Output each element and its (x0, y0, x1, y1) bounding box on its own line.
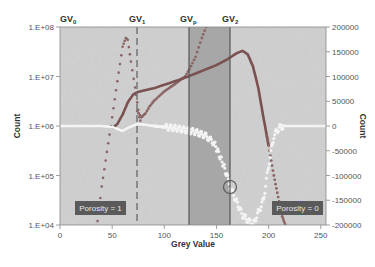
data-point (265, 177, 268, 180)
data-point (200, 37, 203, 40)
data-point (271, 141, 274, 144)
data-point (139, 119, 142, 122)
data-point (277, 196, 280, 199)
porosity-zero-badge: Porosity = 0 (272, 201, 323, 215)
data-point (183, 127, 186, 130)
data-point (123, 40, 126, 43)
data-point (250, 225, 253, 228)
data-point (235, 197, 238, 200)
data-point (120, 54, 123, 57)
porosity-one-label: Porosity = 1 (79, 204, 122, 213)
x-tick-label: 250 (314, 231, 328, 240)
svg-text:GVp: GVp (180, 14, 197, 25)
data-point (99, 197, 102, 200)
data-point (265, 135, 268, 138)
gvp-label: GVp (180, 14, 197, 25)
data-point (259, 209, 262, 212)
data-point (190, 65, 193, 68)
left-axis: 1.E+041.E+051.E+061.E+071.E+08 (28, 23, 60, 230)
data-point (200, 130, 203, 133)
data-point (271, 164, 274, 167)
right-tick-label: 150000 (332, 48, 359, 57)
data-point (263, 196, 266, 199)
data-point (96, 220, 99, 223)
data-point (220, 155, 223, 158)
data-point (267, 166, 270, 169)
right-tick-label: -150000 (332, 196, 362, 205)
data-point (277, 130, 280, 133)
data-point (185, 73, 188, 76)
data-point (217, 150, 220, 153)
data-point (275, 187, 278, 190)
data-point (281, 127, 284, 130)
chart: Porosity = 1 Porosity = 0 GV0 GV1 GVp GV… (0, 0, 375, 267)
data-point (226, 174, 229, 177)
data-point (197, 46, 200, 49)
data-point (116, 80, 119, 83)
data-point (272, 169, 275, 172)
data-point (144, 112, 147, 115)
data-point (193, 59, 196, 62)
data-point (255, 216, 258, 219)
svg-text:GV0: GV0 (60, 14, 77, 25)
right-axis-title: Count (358, 114, 368, 139)
x-axis: 050100150200250 (58, 225, 328, 240)
data-point (130, 60, 133, 63)
data-point (273, 178, 276, 181)
data-point (267, 144, 270, 147)
data-point (191, 62, 194, 65)
data-point (106, 151, 109, 154)
data-point (112, 107, 115, 110)
gv0-label: GV0 (60, 14, 77, 25)
data-point (270, 159, 273, 162)
gv2-label: GV2 (222, 14, 239, 25)
data-point (174, 124, 177, 127)
x-tick-label: 0 (58, 231, 63, 240)
data-point (232, 194, 235, 197)
data-point (172, 129, 175, 132)
right-tick-label: -200000 (332, 221, 362, 230)
data-point (210, 138, 213, 141)
data-point (113, 98, 116, 101)
data-point (202, 33, 205, 36)
right-tick-label: 200000 (332, 23, 359, 32)
right-tick-label: 50000 (332, 97, 355, 106)
data-point (223, 163, 226, 166)
data-point (100, 185, 103, 188)
data-point (260, 200, 263, 203)
left-tick-label: 1.E+06 (28, 122, 54, 131)
data-point (104, 159, 107, 162)
data-point (102, 177, 105, 180)
data-point (199, 41, 202, 44)
data-point (205, 135, 208, 138)
data-point (273, 133, 276, 136)
data-point (185, 130, 188, 133)
data-point (119, 63, 122, 66)
data-point (204, 132, 207, 135)
data-point (131, 69, 134, 72)
right-tick-label: 0 (332, 122, 337, 131)
data-point (272, 137, 275, 140)
data-point (169, 124, 172, 127)
data-point (236, 200, 239, 203)
data-point (181, 130, 184, 133)
right-tick-label: 100000 (332, 73, 359, 82)
data-point (274, 183, 277, 186)
data-point (263, 192, 266, 195)
data-point (264, 185, 267, 188)
gv1-label: GV1 (129, 14, 146, 25)
left-tick-label: 1.E+04 (28, 221, 54, 230)
data-point (266, 140, 269, 143)
data-point (107, 142, 110, 145)
data-point (127, 39, 130, 42)
data-point (178, 125, 181, 128)
right-tick-label: -50000 (332, 147, 357, 156)
svg-text:GV2: GV2 (222, 14, 239, 25)
porosity-zero-label: Porosity = 0 (276, 204, 319, 213)
data-point (115, 89, 118, 92)
data-point (272, 174, 275, 177)
data-point (103, 168, 106, 171)
data-point (128, 46, 131, 49)
data-point (240, 212, 243, 215)
x-tick-label: 100 (158, 231, 172, 240)
